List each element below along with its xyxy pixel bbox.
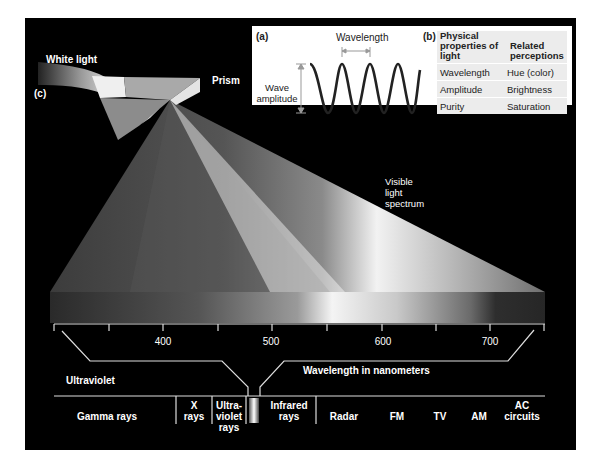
band-ac-circuits: ACcircuits [500,400,544,422]
visible-band-marker [249,398,259,423]
band-fm: FM [382,411,412,422]
band-tv: TV [425,411,455,422]
band-ultraviolet: Ultra-violetrays [212,400,246,433]
tick-400: 400 [150,336,176,347]
prism-label: Prism [212,75,240,86]
header-physical: Physical properties of light [437,31,506,61]
wavelength-axis-label: Wavelength in nanometers [303,365,430,376]
tick-500: 500 [258,336,284,347]
band-am: AM [464,411,494,422]
white-light-label: White light [46,54,97,65]
table-row: WavelengthHue (color) [437,63,567,80]
tick-600: 600 [370,336,396,347]
properties-table: Physical properties of light Related per… [437,31,567,114]
wavelength-label: Wavelength [336,32,388,43]
table-row: AmplitudeBrightness [437,80,567,97]
table-row: PuritySaturation [437,97,567,114]
table-header: Physical properties of light Related per… [437,31,567,63]
band-xrays: Xrays [178,400,210,422]
band-infrared: Infraredrays [262,400,316,422]
inset-b-label: (b) [423,31,436,42]
band-gamma: Gamma rays [52,411,162,422]
spectrum-band [50,292,545,323]
tick-700: 700 [477,336,503,347]
inset-a-label: (a) [256,31,268,42]
visible-spectrum-label: Visible light spectrum [385,176,424,209]
panel-c-label: (c) [34,88,46,99]
header-perceptions: Related perceptions [506,31,567,61]
band-radar: Radar [324,411,364,422]
wave-amplitude-label: Wave amplitude [255,82,299,104]
ultraviolet-label: Ultraviolet [66,375,115,386]
